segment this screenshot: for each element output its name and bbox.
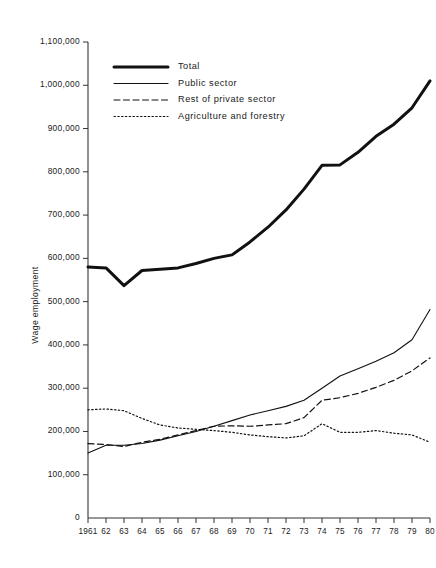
y-axis-tick-label: 0 (75, 512, 80, 522)
legend-swatches (114, 67, 168, 117)
x-axis-tick-label: 80 (410, 527, 436, 536)
y-axis-ticks (83, 42, 88, 475)
y-axis-tick-label: 100,000 (48, 469, 80, 479)
y-axis-tick-label: 700,000 (48, 209, 80, 219)
legend-label-rest-of-private-sector: Rest of private sector (178, 94, 276, 104)
y-axis-tick-label: 900,000 (48, 123, 80, 133)
legend-label-total: Total (178, 61, 200, 71)
y-axis-tick-label: 200,000 (48, 425, 80, 435)
chart-container: Wage employment 0100,000200,000300,00040… (0, 0, 436, 568)
series-line-rest-of-private-sector (88, 358, 430, 447)
y-axis-title: Wage employment (30, 240, 40, 370)
y-axis-tick-label: 500,000 (48, 296, 80, 306)
series-lines (88, 81, 430, 453)
y-axis-tick-label: 400,000 (48, 339, 80, 349)
y-axis-tick-label: 1,100,000 (40, 36, 80, 46)
y-axis-tick-label: 1,000,000 (40, 79, 80, 89)
y-axis-tick-label: 800,000 (48, 166, 80, 176)
legend-label-agriculture-and-forestry: Agriculture and forestry (178, 111, 285, 121)
y-axis-tick-label: 600,000 (48, 252, 80, 262)
legend-label-public-sector: Public sector (178, 78, 237, 88)
x-axis-ticks (88, 518, 430, 523)
y-axis-tick-label: 300,000 (48, 382, 80, 392)
